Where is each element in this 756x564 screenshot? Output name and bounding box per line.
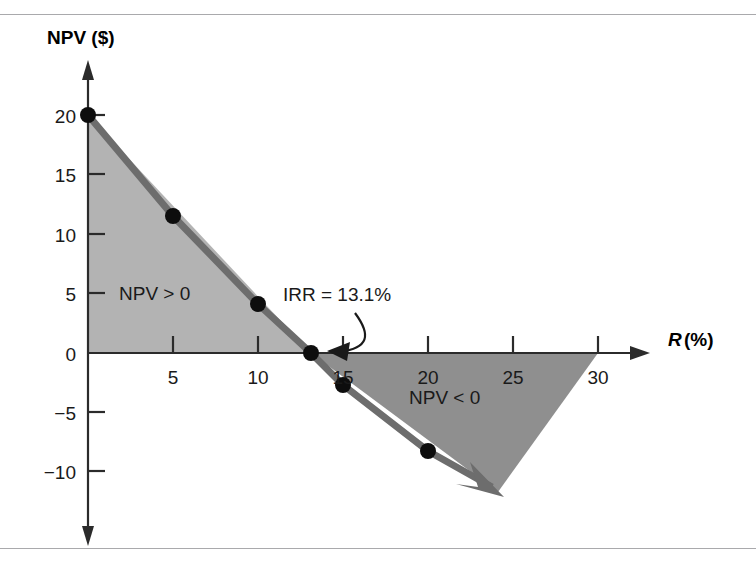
x-axis-unit: (%) [684, 329, 714, 350]
y-tick-label-neg10: −10 [44, 462, 76, 483]
x-tick-label-20: 20 [417, 367, 438, 388]
npv-profile-chart: 20 15 10 5 0 −5 −10 5 10 15 20 25 30 NPV… [0, 0, 756, 564]
y-tick-label-10: 10 [55, 225, 76, 246]
x-axis-arrowhead [630, 346, 650, 360]
data-point-irr [303, 345, 319, 361]
y-tick-label-0: 0 [65, 344, 76, 365]
y-axis-top-arrowhead [82, 60, 94, 80]
y-axis-bottom-arrowhead [82, 526, 94, 546]
y-tick-label-20: 20 [55, 106, 76, 127]
x-tick-label-15: 15 [332, 367, 353, 388]
x-tick-label-10: 10 [247, 367, 268, 388]
x-tick-label-25: 25 [502, 367, 523, 388]
y-tick-label-15: 15 [55, 165, 76, 186]
npv-negative-label: NPV < 0 [409, 387, 480, 408]
irr-annotation-label: IRR = 13.1% [283, 284, 391, 305]
data-point-20 [420, 443, 436, 459]
npv-positive-label: NPV > 0 [119, 283, 190, 304]
y-tick-label-neg5: −5 [54, 403, 76, 424]
x-axis-symbol: R [668, 329, 682, 350]
data-point-10 [250, 296, 266, 312]
negative-npv-area [311, 353, 598, 492]
data-point-0 [80, 107, 96, 123]
figure-canvas: 20 15 10 5 0 −5 −10 5 10 15 20 25 30 NPV… [0, 0, 756, 564]
x-tick-label-30: 30 [587, 367, 608, 388]
y-axis-title: NPV ($) [47, 27, 115, 48]
x-tick-label-5: 5 [168, 367, 179, 388]
y-tick-label-5: 5 [65, 284, 76, 305]
data-point-5 [165, 208, 181, 224]
